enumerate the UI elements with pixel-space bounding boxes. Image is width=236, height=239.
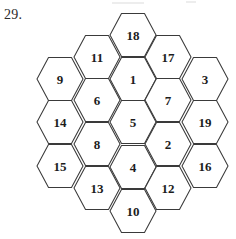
hexagon-cell-number: 2 [165, 137, 172, 152]
hexagon-cell-number: 13 [91, 181, 105, 196]
hexagon-cell-number: 4 [130, 160, 137, 175]
hexagon-cell-group: 91415116813181541017721231916 [37, 14, 228, 233]
hexagon-cell-16[interactable]: 16 [182, 145, 228, 188]
hexagon-grid-svg: 91415116813181541017721231916 [0, 0, 236, 239]
scan-artifact [186, 1, 196, 3]
scan-artifact [112, 2, 144, 4]
hexagon-cell-number: 5 [130, 115, 137, 130]
hexagon-cell-number: 3 [202, 72, 209, 87]
hexagon-cell-number: 12 [162, 181, 175, 196]
hexagon-cell-number: 8 [94, 137, 101, 152]
hexagon-column-5: 31916 [182, 58, 228, 188]
hexagon-cell-number: 7 [165, 93, 172, 108]
hexagon-cell-number: 16 [199, 159, 213, 174]
hexagon-cell-number: 19 [199, 115, 213, 130]
hexagon-cell-number: 10 [127, 204, 140, 219]
hexagon-grid: 91415116813181541017721231916 [0, 0, 236, 239]
hexagon-cell-9[interactable]: 9 [37, 58, 83, 101]
hexagon-cell-number: 17 [162, 50, 176, 65]
hexagon-cell-number: 18 [127, 28, 141, 43]
hexagon-cell-number: 11 [91, 50, 103, 65]
hexagon-cell-number: 6 [94, 93, 101, 108]
hexagon-cell-19[interactable]: 19 [182, 101, 228, 144]
puzzle-page: 29. 91415116813181541017721231916 [0, 0, 236, 239]
hexagon-cell-14[interactable]: 14 [37, 101, 83, 144]
hexagon-cell-number: 14 [54, 115, 68, 130]
hexagon-cell-number: 9 [57, 72, 64, 87]
hexagon-cell-15[interactable]: 15 [37, 145, 83, 188]
hexagon-column-1: 91415 [37, 58, 83, 188]
hexagon-column-3: 1815410 [110, 14, 156, 233]
hexagon-cell-number: 15 [54, 159, 68, 174]
hexagon-cell-3[interactable]: 3 [182, 58, 228, 101]
hexagon-cell-8[interactable]: 8 [74, 123, 120, 166]
hexagon-cell-11[interactable]: 11 [74, 36, 120, 79]
hexagon-cell-number: 1 [130, 72, 137, 87]
